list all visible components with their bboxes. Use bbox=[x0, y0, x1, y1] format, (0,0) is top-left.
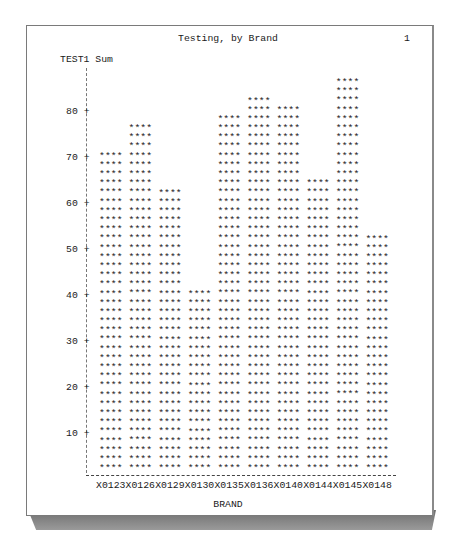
x-tick-label: X0144 bbox=[303, 480, 332, 491]
y-tick-label: 60 + bbox=[66, 198, 90, 209]
x-tick-label: X0148 bbox=[362, 480, 391, 491]
bar-x0129: ****************************************… bbox=[158, 189, 182, 474]
x-tick-label: X0135 bbox=[214, 480, 243, 491]
y-tick-label: 20 + bbox=[66, 382, 90, 393]
y-axis-label: TEST1 Sum bbox=[60, 54, 113, 65]
bar-x0144: ****************************************… bbox=[306, 179, 330, 473]
bar-x0148: ****************************************… bbox=[365, 235, 389, 474]
x-tick-label: X0136 bbox=[244, 480, 273, 491]
y-axis bbox=[86, 68, 87, 473]
bar-x0130: ****************************************… bbox=[188, 290, 212, 474]
y-tick-label: 70 + bbox=[66, 152, 90, 163]
x-axis bbox=[86, 475, 396, 476]
y-tick-label: 10 + bbox=[66, 428, 90, 439]
x-tick-label: X0130 bbox=[185, 480, 214, 491]
y-tick-label: 30 + bbox=[66, 336, 90, 347]
y-tick-label: 40 + bbox=[66, 290, 90, 301]
bar-x0136: ****************************************… bbox=[247, 97, 271, 474]
x-tick-label: X0140 bbox=[274, 480, 303, 491]
y-tick-label: 50 + bbox=[66, 244, 90, 255]
bar-x0123: ****************************************… bbox=[99, 152, 123, 474]
x-tick-label: X0123 bbox=[96, 480, 125, 491]
bar-x0135: ****************************************… bbox=[217, 115, 241, 473]
x-axis-label: BRAND bbox=[0, 499, 456, 510]
page-number: 1 bbox=[404, 33, 410, 44]
bar-x0140: ****************************************… bbox=[277, 106, 301, 474]
bar-x0126: ****************************************… bbox=[129, 124, 153, 473]
bar-x0145: ****************************************… bbox=[336, 78, 360, 473]
x-tick-label: X0145 bbox=[333, 480, 362, 491]
chart-title: Testing, by Brand bbox=[0, 33, 456, 44]
x-tick-label: X0129 bbox=[155, 480, 184, 491]
x-tick-label: X0126 bbox=[126, 480, 155, 491]
y-tick-label: 80 + bbox=[66, 106, 90, 117]
